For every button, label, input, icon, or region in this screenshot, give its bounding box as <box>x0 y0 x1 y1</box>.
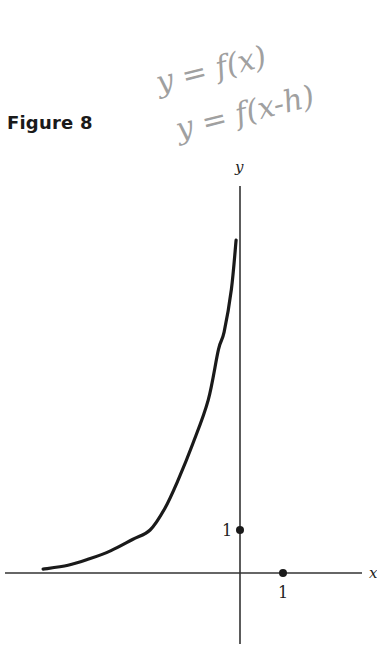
annotation-line1: y = f(x) <box>150 38 270 100</box>
x-axis-label: x <box>369 564 377 582</box>
plot-area: y = f(x) y = f(x-h) y x 1 1 <box>0 0 377 646</box>
curve-series <box>43 240 236 569</box>
x-tick-label-1: 1 <box>278 583 288 602</box>
point-x1 <box>279 569 287 577</box>
y-axis-label: y <box>234 158 244 176</box>
y-tick-label-1: 1 <box>222 521 232 540</box>
point-y1 <box>236 526 244 534</box>
handwritten-annotations: y = f(x) y = f(x-h) <box>150 30 318 149</box>
